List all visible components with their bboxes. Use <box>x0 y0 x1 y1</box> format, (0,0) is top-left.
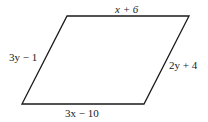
side-label-left: 3y − 1 <box>9 52 37 63</box>
side-label-bottom: 3x − 10 <box>65 108 99 119</box>
side-label-right: 2y + 4 <box>169 60 197 71</box>
side-label-top: x + 6 <box>115 4 138 15</box>
parallelogram-shape <box>22 16 189 104</box>
